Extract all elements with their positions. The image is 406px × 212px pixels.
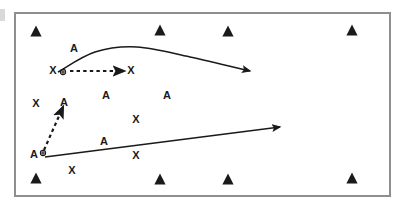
player-label-a: A <box>60 97 68 108</box>
play-diagram-screenshot: AXXAAXAXAAXX <box>0 0 406 212</box>
ball-marker-group <box>40 69 65 155</box>
defender-triangle <box>154 174 165 185</box>
route-curved-route-top <box>58 47 250 72</box>
defender-triangle <box>346 25 357 36</box>
player-label-a: A <box>163 90 171 101</box>
route-straight-route-bottom <box>45 127 280 157</box>
player-label-a: A <box>70 43 78 54</box>
defender-triangle <box>154 25 165 36</box>
player-label-a: A <box>30 149 38 160</box>
player-label-x: X <box>49 65 56 76</box>
player-label-x: X <box>32 98 39 109</box>
player-label-x: X <box>68 165 75 176</box>
route-group <box>44 47 280 157</box>
player-label-a: A <box>100 136 108 147</box>
defender-triangle-group <box>30 25 357 185</box>
player-label-x: X <box>132 150 139 161</box>
route-dashed-pass-diagonal <box>44 107 63 150</box>
defender-triangle <box>346 173 357 184</box>
defender-triangle <box>30 173 41 184</box>
ball-marker <box>40 150 45 155</box>
defender-triangle <box>222 26 233 37</box>
defender-triangle <box>30 26 41 37</box>
player-label-x: X <box>127 65 134 76</box>
defender-triangle <box>222 174 233 185</box>
player-label-x: X <box>132 114 139 125</box>
ball-marker <box>60 69 65 74</box>
player-label-a: A <box>102 90 110 101</box>
